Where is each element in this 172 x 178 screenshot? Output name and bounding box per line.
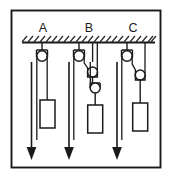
pulley-b1-fixed-wheel <box>74 51 84 61</box>
ceiling-hatching <box>22 36 156 42</box>
pulley-systems-figure: A B <box>0 0 172 178</box>
effort-arrow-c-head <box>112 147 122 160</box>
pulley-a-fixed-wheel <box>37 51 47 61</box>
effort-arrow-b-head <box>64 147 74 160</box>
weight-c <box>133 103 148 131</box>
weight-a <box>40 100 55 128</box>
effort-arrow-a-head <box>27 147 37 160</box>
system-label-c: C <box>128 21 137 35</box>
pulley-diagram-canvas: A B <box>0 0 172 178</box>
weight-b <box>88 105 103 133</box>
ceiling-support <box>22 36 156 43</box>
pulley-b3-movable-wheel <box>90 83 100 93</box>
pulley-b2-movable-wheel <box>88 67 98 77</box>
system-label-a: A <box>39 21 48 35</box>
pulley-c1-fixed-wheel <box>122 51 132 61</box>
pulley-c2-movable-wheel <box>135 70 145 80</box>
system-label-b: B <box>85 21 93 35</box>
